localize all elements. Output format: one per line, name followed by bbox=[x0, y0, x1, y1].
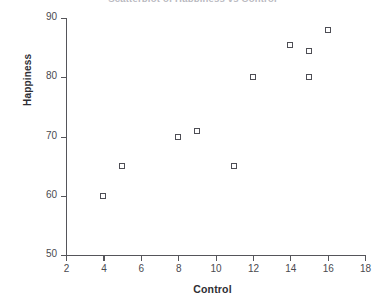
y-tick-80: 80 bbox=[61, 77, 66, 78]
x-tick-16: 16 bbox=[328, 256, 329, 261]
x-tick-label-16: 16 bbox=[323, 263, 334, 274]
x-tick-12: 12 bbox=[253, 256, 254, 261]
data-point bbox=[325, 27, 331, 33]
y-tick-label-60: 60 bbox=[46, 189, 57, 200]
x-tick-label-14: 14 bbox=[285, 263, 296, 274]
x-tick-label-12: 12 bbox=[248, 263, 259, 274]
chart-title: Scatterplot of Happiness vs Control bbox=[0, 0, 385, 2]
scatter-chart-figure: Scatterplot of Happiness vs Control Happ… bbox=[0, 0, 385, 307]
x-tick-6: 6 bbox=[141, 256, 142, 261]
data-point bbox=[306, 48, 312, 54]
data-point bbox=[250, 74, 256, 80]
y-tick-90: 90 bbox=[61, 18, 66, 19]
y-tick-label-50: 50 bbox=[46, 248, 57, 259]
x-tick-8: 8 bbox=[178, 256, 179, 261]
plot-area: 5060708090 24681012141618 bbox=[66, 18, 365, 255]
data-point bbox=[119, 163, 125, 169]
x-tick-label-2: 2 bbox=[64, 263, 70, 274]
x-tick-10: 10 bbox=[216, 256, 217, 261]
x-tick-label-18: 18 bbox=[360, 263, 371, 274]
data-point bbox=[306, 74, 312, 80]
y-tick-label-90: 90 bbox=[46, 11, 57, 22]
y-tick-label-80: 80 bbox=[46, 70, 57, 81]
y-tick-70: 70 bbox=[61, 137, 66, 138]
data-point bbox=[287, 42, 293, 48]
data-point bbox=[231, 163, 237, 169]
y-axis-title: Happiness bbox=[22, 54, 33, 106]
y-tick-label-70: 70 bbox=[46, 130, 57, 141]
x-tick-2: 2 bbox=[66, 256, 67, 261]
y-axis-line bbox=[66, 18, 67, 256]
data-point bbox=[194, 128, 200, 134]
x-tick-label-8: 8 bbox=[176, 263, 182, 274]
x-tick-label-10: 10 bbox=[211, 263, 222, 274]
data-point bbox=[175, 134, 181, 140]
x-tick-label-4: 4 bbox=[101, 263, 107, 274]
data-point bbox=[100, 193, 106, 199]
x-tick-14: 14 bbox=[290, 256, 291, 261]
y-tick-60: 60 bbox=[61, 196, 66, 197]
x-tick-4: 4 bbox=[103, 256, 104, 261]
x-tick-label-6: 6 bbox=[139, 263, 145, 274]
x-tick-18: 18 bbox=[365, 256, 366, 261]
x-axis-title: Control bbox=[0, 283, 385, 295]
